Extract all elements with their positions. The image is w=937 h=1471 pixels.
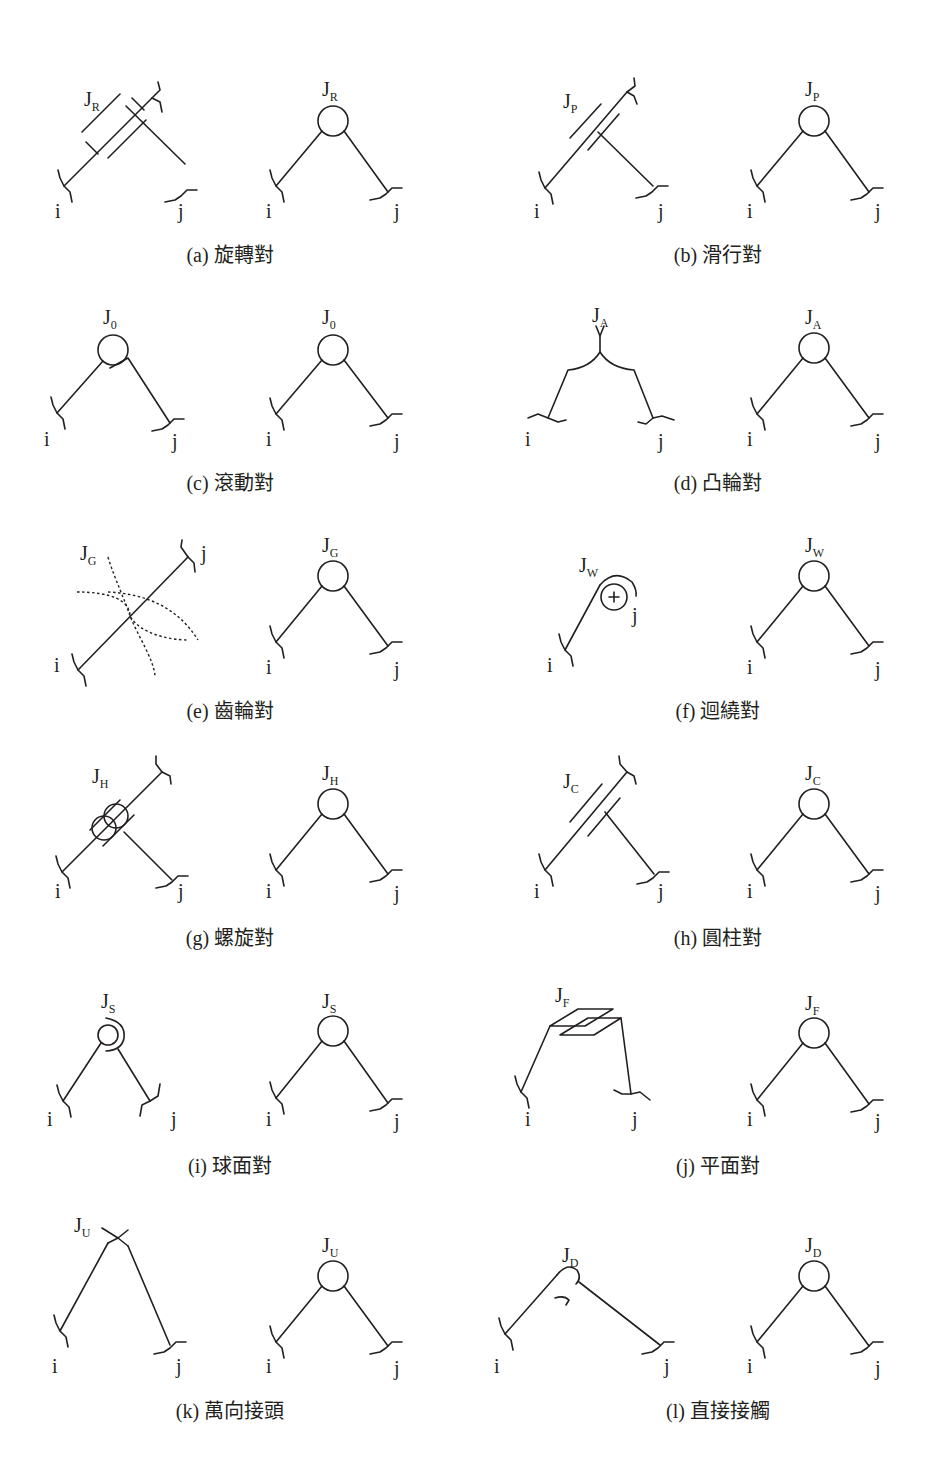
svg-text:JU: JU [322, 1234, 339, 1260]
svg-text:j: j [170, 1108, 177, 1131]
svg-text:j: j [657, 880, 664, 903]
svg-text:JA: JA [805, 306, 822, 332]
svg-text:j: j [393, 658, 400, 681]
panel-f-physical: JW i j [547, 554, 638, 676]
panel-e-physical: JG i j [48, 540, 207, 686]
panel-b-physical: JP i j [534, 78, 668, 223]
svg-text:i: i [266, 428, 272, 450]
svg-text:i: i [266, 200, 272, 222]
svg-text:i: i [52, 1355, 58, 1377]
panel-c-physical: J0 i j [44, 306, 184, 453]
svg-text:j: j [657, 200, 664, 223]
caption-d: (d) 凸輪對 [674, 472, 762, 495]
svg-text:j: j [874, 1357, 881, 1380]
svg-text:i: i [266, 1108, 272, 1130]
link-j-label: j [177, 200, 184, 223]
svg-text:i: i [747, 1355, 753, 1377]
svg-text:JA: JA [592, 304, 609, 330]
svg-text:j: j [393, 430, 400, 453]
caption-e: (e) 齒輪對 [186, 700, 273, 723]
svg-text:j: j [177, 880, 184, 903]
panel-b-symbol: JP i j [747, 78, 883, 223]
svg-text:JS: JS [101, 990, 115, 1016]
svg-text:i: i [47, 1108, 53, 1130]
svg-text:j: j [874, 200, 881, 223]
svg-text:j: j [631, 1108, 638, 1131]
panel-d-physical: JA i j [525, 304, 674, 453]
panel-i-physical: JS i j [47, 990, 177, 1131]
svg-text:JH: JH [322, 762, 339, 788]
svg-text:i: i [747, 656, 753, 678]
panel-a-symbol: JR i j [266, 78, 402, 223]
svg-text:i: i [55, 880, 61, 902]
svg-text:JG: JG [80, 542, 97, 568]
panel-i-symbol: JS i j [266, 990, 402, 1133]
svg-text:j: j [171, 430, 178, 453]
svg-text:JW: JW [579, 554, 599, 580]
caption-b: (b) 滑行對 [674, 244, 762, 267]
svg-text:JG: JG [322, 534, 339, 560]
svg-text:j: j [393, 200, 400, 223]
svg-text:J0: J0 [103, 306, 117, 332]
caption-g: (g) 螺旋對 [186, 927, 274, 950]
svg-text:j: j [200, 542, 207, 565]
svg-text:JU: JU [74, 1214, 91, 1240]
panel-a-physical: JR i j [55, 82, 197, 223]
panel-h-physical: JC i j [534, 756, 669, 903]
svg-text:JS: JS [322, 990, 336, 1016]
svg-text:JF: JF [555, 984, 570, 1010]
svg-text:i: i [525, 1108, 531, 1130]
svg-text:i: i [747, 428, 753, 450]
svg-text:i: i [44, 428, 50, 450]
svg-text:j: j [393, 1357, 400, 1380]
svg-text:j: j [175, 1355, 182, 1378]
panel-k-physical: JU i j [52, 1214, 186, 1378]
caption-k: (k) 萬向接頭 [176, 1400, 284, 1423]
svg-text:i: i [54, 654, 60, 676]
svg-text:j: j [874, 1110, 881, 1133]
svg-text:i: i [747, 880, 753, 902]
kinematic-pairs-figure: JR i j JR i j (a) 旋轉對 JP i j JP i j ( [0, 0, 937, 1471]
svg-text:i: i [525, 428, 531, 450]
svg-text:JP: JP [805, 78, 820, 104]
svg-text:j: j [874, 430, 881, 453]
caption-c: (c) 滾動對 [186, 472, 273, 495]
svg-text:j: j [393, 1110, 400, 1133]
svg-text:j: j [631, 604, 638, 627]
svg-text:JC: JC [563, 770, 579, 796]
svg-text:i: i [547, 654, 553, 676]
svg-text:JR: JR [322, 78, 338, 104]
caption-i: (i) 球面對 [188, 1155, 272, 1178]
svg-text:JP: JP [563, 90, 578, 116]
svg-text:JD: JD [805, 1234, 822, 1260]
panel-c-symbol: J0 i j [266, 306, 402, 453]
svg-text:JC: JC [805, 762, 821, 788]
svg-text:j: j [663, 1355, 670, 1378]
svg-text:i: i [747, 200, 753, 222]
svg-text:j: j [393, 882, 400, 905]
caption-h: (h) 圓柱對 [674, 927, 762, 950]
panel-k-symbol: JU i j [266, 1234, 402, 1380]
caption-f: (f) 迴繞對 [676, 700, 761, 723]
joint-label: JR [84, 88, 100, 114]
svg-text:JD: JD [562, 1244, 579, 1270]
panel-l-physical: JD i j [494, 1244, 674, 1378]
svg-text:i: i [534, 200, 540, 222]
panel-j-symbol: JF i j [747, 992, 883, 1133]
panel-g-symbol: JH i j [266, 762, 402, 905]
caption-j: (j) 平面對 [676, 1155, 760, 1178]
panel-e-symbol: JG i j [266, 534, 402, 681]
svg-text:i: i [266, 880, 272, 902]
panel-j-physical: JF i j [515, 984, 650, 1131]
svg-text:i: i [534, 880, 540, 902]
svg-text:i: i [266, 656, 272, 678]
panel-l-symbol: JD i j [747, 1234, 883, 1380]
svg-text:j: j [874, 658, 881, 681]
panel-d-symbol: JA i j [747, 306, 883, 453]
caption-a: (a) 旋轉對 [186, 244, 273, 267]
svg-text:i: i [747, 1108, 753, 1130]
svg-text:i: i [494, 1355, 500, 1377]
link-i-label: i [55, 200, 61, 222]
svg-text:JW: JW [805, 534, 825, 560]
panel-h-symbol: JC i j [747, 762, 883, 905]
